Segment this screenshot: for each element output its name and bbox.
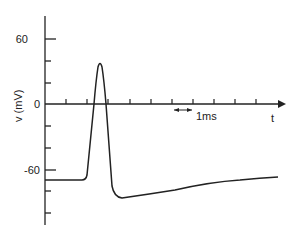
y-axis-label: v (mV) [12, 90, 24, 122]
x-axis-label: t [271, 112, 274, 124]
y-tick-label-60: 60 [16, 33, 28, 45]
action-potential-chart: 60 0 -60 v (mV) t 1ms [0, 0, 295, 236]
y-tick-label-0: 0 [34, 98, 40, 110]
action-potential-trace [45, 64, 278, 199]
x-axis-arrow-icon [278, 100, 286, 108]
scale-bar: 1ms [174, 108, 217, 122]
y-ticks [45, 39, 56, 213]
scale-bar-label: 1ms [196, 110, 217, 122]
y-tick-label-neg60: -60 [24, 164, 40, 176]
